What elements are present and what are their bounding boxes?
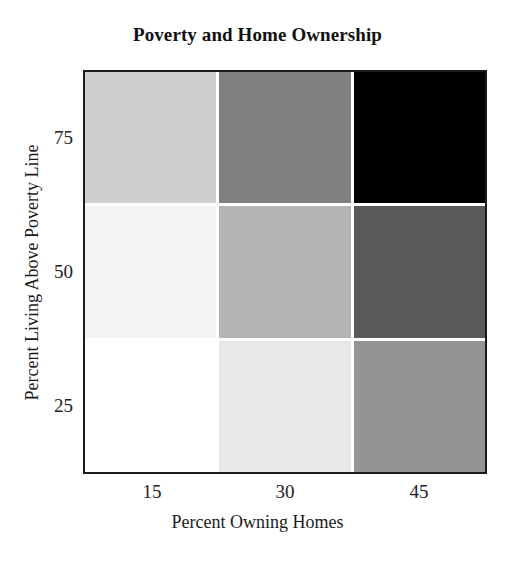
heatmap-cell <box>219 72 350 203</box>
heatmap-cell <box>354 341 485 472</box>
heatmap-cell <box>85 341 216 472</box>
heatmap-cell <box>219 341 350 472</box>
x-axis-tick-label: 15 <box>112 481 192 503</box>
heatmap-cell <box>219 206 350 337</box>
heatmap-cell <box>354 72 485 203</box>
heatmap-cell <box>85 72 216 203</box>
heatmap-cell <box>85 206 216 337</box>
chart-title: Poverty and Home Ownership <box>0 24 515 46</box>
x-axis-title: Percent Owning Homes <box>0 512 515 533</box>
x-axis-tick-label: 45 <box>379 481 459 503</box>
heatmap-cell <box>354 206 485 337</box>
y-axis-title: Percent Living Above Poverty Line <box>22 63 43 483</box>
heatmap-grid <box>85 72 485 472</box>
x-axis-tick-label: 30 <box>245 481 325 503</box>
plot-frame <box>83 70 487 474</box>
